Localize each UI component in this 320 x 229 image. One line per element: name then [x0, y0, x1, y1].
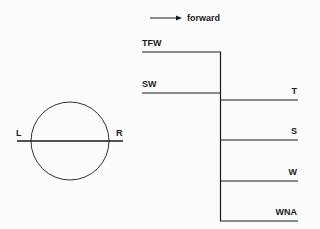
branch-label-s: S: [291, 126, 297, 136]
branch-label-tfw: TFW: [142, 38, 162, 48]
branch-tree: TFW SW T S W WNA: [142, 38, 298, 221]
circle-diagram: L R: [16, 102, 123, 180]
arrow-head-icon: [176, 16, 182, 21]
forward-arrow: forward: [150, 13, 220, 23]
branch-label-w: W: [289, 167, 298, 177]
left-label: L: [16, 128, 22, 138]
forward-label: forward: [187, 13, 220, 23]
diagram-canvas: forward L R TFW SW T S W WNA: [0, 0, 320, 229]
branch-label-wna: WNA: [276, 207, 298, 217]
branch-label-t: T: [292, 86, 298, 96]
right-label: R: [116, 128, 123, 138]
branch-label-sw: SW: [142, 79, 157, 89]
